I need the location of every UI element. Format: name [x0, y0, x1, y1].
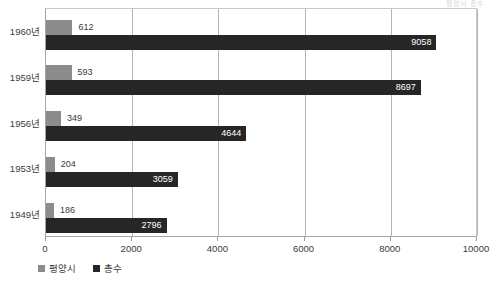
bar-value-label: 4644	[221, 129, 246, 138]
x-tick-mark	[45, 237, 46, 241]
y-axis-label-1960년: 1960년	[10, 24, 40, 38]
bar-total[interactable]: 8697	[46, 80, 421, 95]
bar-group: 593	[46, 65, 93, 80]
clipped-header-text: 평양시 총수	[446, 0, 484, 8]
bar-value-label: 612	[72, 23, 93, 32]
x-axis: 0200040006000800010000	[45, 237, 477, 259]
x-axis-label-0: 0	[42, 243, 47, 254]
bar-value-label: 3059	[153, 175, 178, 184]
chart-category-row: 3494644	[46, 101, 476, 147]
bar-group: 612	[46, 20, 93, 35]
bar-group: 2796	[46, 218, 167, 233]
x-tick-mark	[217, 237, 218, 241]
chart-category-row: 5938697	[46, 55, 476, 101]
y-axis-label-1956년: 1956년	[10, 116, 40, 130]
bar-total[interactable]: 4644	[46, 126, 246, 141]
bar-group: 204	[46, 157, 76, 172]
legend-label: 총수	[104, 264, 122, 274]
legend-item-평양시[interactable]: 평양시	[38, 264, 76, 274]
bar-value-label: 593	[72, 68, 93, 77]
bar-value-label: 349	[61, 114, 82, 123]
legend-swatch-icon	[93, 265, 100, 272]
chart-legend: 평양시총수	[38, 264, 122, 274]
y-axis-label-1953년: 1953년	[10, 161, 40, 175]
bar-total[interactable]: 2796	[46, 218, 167, 233]
x-tick-mark	[476, 237, 477, 241]
x-tick-mark	[131, 237, 132, 241]
chart-category-row: 6129058	[46, 9, 476, 55]
x-axis-label-2000: 2000	[121, 243, 142, 254]
x-axis-label-6000: 6000	[293, 243, 314, 254]
plot-area: 61290585938697349464420430591862796	[45, 8, 477, 237]
bar-group: 349	[46, 111, 82, 126]
y-axis-label-1949년: 1949년	[10, 207, 40, 221]
bar-chart: 평양시 총수 612905859386973494644204305918627…	[0, 0, 492, 287]
bar-total[interactable]: 9058	[46, 35, 436, 50]
chart-category-row: 1862796	[46, 192, 476, 238]
bar-group: 3059	[46, 172, 178, 187]
legend-label: 평양시	[49, 264, 76, 274]
legend-swatch-icon	[38, 265, 45, 272]
y-axis-label-1959년: 1959년	[10, 70, 40, 84]
bar-group: 186	[46, 203, 75, 218]
bar-value-label: 204	[55, 160, 76, 169]
legend-item-총수[interactable]: 총수	[93, 264, 122, 274]
bar-city[interactable]	[46, 111, 61, 126]
x-axis-label-10000: 10000	[463, 243, 489, 254]
x-axis-label-4000: 4000	[207, 243, 228, 254]
x-tick-mark	[390, 237, 391, 241]
bar-total[interactable]: 3059	[46, 172, 178, 187]
bar-value-label: 9058	[411, 38, 436, 47]
bar-group: 8697	[46, 80, 421, 95]
gridline	[477, 9, 478, 236]
bar-city[interactable]	[46, 20, 72, 35]
bar-group: 4644	[46, 126, 246, 141]
bar-value-label: 8697	[396, 83, 421, 92]
y-axis-category-labels: 1960년1959년1956년1953년1949년	[0, 8, 43, 237]
x-tick-mark	[304, 237, 305, 241]
bar-city[interactable]	[46, 65, 72, 80]
bar-value-label: 186	[54, 206, 75, 215]
bar-group: 9058	[46, 35, 436, 50]
bar-city[interactable]	[46, 157, 55, 172]
x-axis-label-8000: 8000	[379, 243, 400, 254]
chart-category-row: 2043059	[46, 146, 476, 192]
bar-city[interactable]	[46, 203, 54, 218]
bar-value-label: 2796	[141, 221, 166, 230]
